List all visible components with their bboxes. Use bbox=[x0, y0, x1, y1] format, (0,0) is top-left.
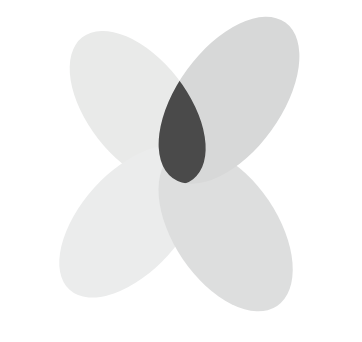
rosette-figure: Four Petal Rosette bbox=[0, 0, 362, 342]
figure-canvas: Four Petal Rosette bbox=[0, 0, 362, 342]
